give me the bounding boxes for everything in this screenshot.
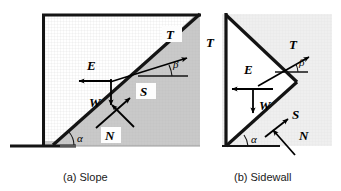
slope-force-label-s: S — [140, 84, 147, 99]
sidewall-force-label-s: S — [292, 107, 299, 122]
sidewall-force-label-w: W — [259, 98, 272, 113]
slope-alpha-label: α — [77, 132, 83, 144]
slope-force-label-t-outer: T — [206, 35, 215, 50]
sidewall-force-label-t: T — [289, 37, 298, 52]
sidewall-force-label-n: N — [298, 128, 309, 143]
caption-panel-b: (b) Sidewall — [234, 171, 291, 183]
panel-sidewall: α β T E W S N (b) Sidewall — [222, 13, 332, 183]
slope-force-label-e: E — [86, 58, 96, 73]
force-diagram-svg: α β T E W S N T — [0, 0, 341, 191]
slope-force-label-w: W — [89, 95, 102, 110]
panel-slope: α β T E W S N T — [10, 14, 215, 183]
slope-force-label-n: N — [104, 128, 115, 143]
sidewall-alpha-label: α — [251, 133, 257, 145]
sidewall-beta-label: β — [298, 56, 305, 68]
slope-beta-label: β — [172, 58, 179, 70]
sidewall-force-label-e: E — [243, 62, 253, 77]
slope-force-label-t: T — [166, 27, 175, 42]
figure-container: α β T E W S N T — [0, 0, 341, 191]
caption-panel-a: (a) Slope — [63, 171, 108, 183]
